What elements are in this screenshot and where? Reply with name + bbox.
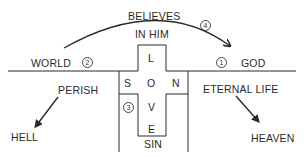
heaven-label: HEAVEN	[251, 133, 295, 144]
cross-letter-v: V	[148, 102, 155, 113]
step-2-badge: 2	[82, 57, 93, 68]
eternal-life-arrow	[236, 96, 258, 121]
in-him-label: IN HIM	[135, 29, 169, 40]
perish-arrow	[36, 97, 58, 126]
cross-letter-n: N	[172, 78, 180, 89]
cross-letter-l: L	[148, 53, 154, 64]
sin-label: SIN	[144, 139, 162, 150]
hell-label: HELL	[11, 132, 38, 143]
cross-letter-e: E	[148, 124, 155, 135]
step-4-badge: 4	[200, 20, 211, 31]
god-label: GOD	[241, 58, 266, 69]
step-1-badge: 1	[216, 57, 227, 68]
step-3-badge: 3	[123, 102, 134, 113]
cross-letter-s: S	[124, 78, 131, 89]
world-label: WORLD	[31, 58, 71, 69]
cross-letter-o: O	[147, 78, 155, 89]
believes-label: BELIEVES	[128, 11, 180, 22]
perish-label: PERISH	[58, 85, 98, 96]
eternal-life-label: ETERNAL LIFE	[203, 84, 279, 95]
